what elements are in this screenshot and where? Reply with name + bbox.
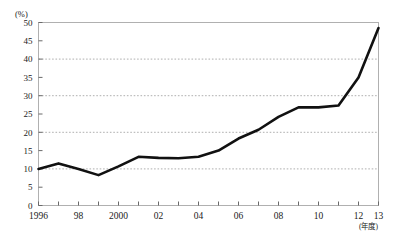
y-tick-label-25: 25 xyxy=(24,109,34,119)
x-tick-label-2004: 04 xyxy=(194,211,204,221)
x-tick-label-1998: 98 xyxy=(74,211,84,221)
y-axis-unit-label: (%) xyxy=(15,9,28,19)
x-tick-label-2012: 12 xyxy=(354,211,364,221)
line-chart: 05101520253035404550 1996982000020406081… xyxy=(0,0,395,245)
x-tick-label-2010: 10 xyxy=(314,211,324,221)
chart-background xyxy=(0,0,395,245)
y-tick-label-15: 15 xyxy=(24,146,34,156)
chart-canvas: 05101520253035404550 1996982000020406081… xyxy=(0,0,395,245)
x-tick-label-2013: 13 xyxy=(374,211,384,221)
y-tick-label-20: 20 xyxy=(24,128,34,138)
y-tick-label-45: 45 xyxy=(24,36,34,46)
x-tick-label-2002: 02 xyxy=(154,211,164,221)
x-axis-unit-label: (年度) xyxy=(359,221,378,231)
y-tick-label-10: 10 xyxy=(24,164,34,174)
x-tick-label-2008: 08 xyxy=(274,211,284,221)
y-tick-label-50: 50 xyxy=(24,18,34,28)
y-tick-label-5: 5 xyxy=(28,182,33,192)
y-tick-label-0: 0 xyxy=(28,201,33,211)
x-tick-label-1996: 1996 xyxy=(29,211,48,221)
y-tick-label-40: 40 xyxy=(24,54,34,64)
x-tick-label-2000: 2000 xyxy=(109,211,128,221)
y-tick-label-35: 35 xyxy=(24,73,34,83)
x-tick-label-2006: 06 xyxy=(234,211,244,221)
y-tick-label-30: 30 xyxy=(24,91,34,101)
